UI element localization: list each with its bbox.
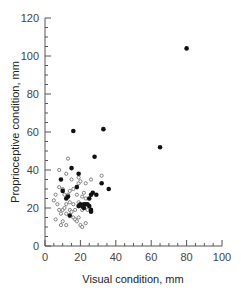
data-point-open [100,174,103,177]
data-point-open [75,220,78,223]
x-tick-label: 20 [74,251,86,263]
data-point-open [68,189,71,192]
data-point-open [61,220,64,223]
data-point-open [56,203,59,206]
data-point-filled [76,172,81,177]
y-tick-label: 80 [27,88,39,100]
y-tick-label: 20 [27,202,39,214]
data-point-open [54,193,57,196]
data-point-open [58,186,61,189]
data-point-filled [158,145,163,150]
data-point-open [70,178,73,181]
data-point-open [54,218,57,221]
data-point-open [63,206,66,209]
data-point-open [65,212,68,215]
x-tick-label: 0 [42,251,48,263]
scatter-chart: 020406080100120 020406080100 Visual cond… [0,0,241,294]
data-point-open [72,203,75,206]
data-point-open [66,157,69,160]
data-point-filled [66,194,71,199]
data-point-open [68,201,71,204]
data-point-open [63,193,66,196]
data-point-open [81,195,84,198]
data-point-filled [60,189,65,194]
x-tick-label: 40 [110,251,122,263]
data-point-open [73,208,76,211]
data-point-filled [89,210,94,215]
data-point-filled [101,127,106,132]
data-point-open [84,197,87,200]
data-point-open [72,187,75,190]
y-tick-label: 120 [21,12,39,24]
data-point-filled [82,206,87,211]
data-point-open [84,182,87,185]
data-point-open [75,193,78,196]
data-point-open [84,222,87,225]
x-tick-label: 80 [180,251,192,263]
data-point-filled [184,46,189,51]
data-point-open [65,224,68,227]
data-point-filled [75,185,80,190]
x-tick-label: 100 [213,251,231,263]
data-point-open [52,199,55,202]
data-point-open [59,212,62,215]
x-tick-label: 60 [145,251,157,263]
data-point-filled [69,166,74,171]
data-point-open [81,225,84,228]
data-point-open [59,224,62,227]
data-point-open [65,203,68,206]
y-tick-label: 40 [27,164,39,176]
y-axis: 020406080100120 [21,12,51,252]
data-point-filled [67,213,72,218]
y-axis-label: Proprioceptive condition, mm [9,61,21,203]
data-point-open [86,208,89,211]
data-point-open [58,168,61,171]
data-point-open [65,172,68,175]
y-tick-label: 60 [27,126,39,138]
data-point-filled [106,187,111,192]
data-point-open [82,191,85,194]
data-point-filled [99,181,104,186]
data-point-filled [92,154,97,159]
series-filled [59,46,189,218]
data-point-open [77,176,80,179]
data-point-open [79,180,82,183]
x-axis-label: Visual condition, mm [82,273,183,285]
x-axis: 020406080100 [42,240,231,263]
data-point-filled [71,129,76,134]
data-point-filled [87,196,92,201]
y-tick-label: 100 [21,50,39,62]
data-point-open [58,208,61,211]
data-point-open [70,210,73,213]
data-point-filled [90,191,95,196]
data-point-open [89,178,92,181]
data-point-open [77,216,80,219]
data-point-filled [59,177,64,182]
y-tick-label: 0 [33,240,39,252]
